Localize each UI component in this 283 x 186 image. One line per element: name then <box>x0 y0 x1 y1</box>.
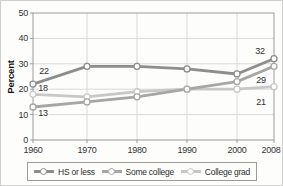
chart-figure: 0102030405019601970198019902000200822181… <box>0 0 283 186</box>
x-tick-label: 1970 <box>77 145 96 155</box>
data-point-label: 29 <box>256 75 266 85</box>
x-tick-label: 2008 <box>261 145 280 155</box>
legend-item-hs-or-less: HS or less <box>34 167 95 177</box>
y-tick-label: 10 <box>18 110 28 120</box>
x-tick-label: 1960 <box>23 145 42 155</box>
x-tick-label: 2000 <box>227 145 246 155</box>
y-axis-title: Percent <box>5 54 17 100</box>
legend-item-some-college: Some college <box>102 167 175 177</box>
data-point-label: 21 <box>256 97 266 107</box>
legend-label: Some college <box>126 167 175 177</box>
legend: HS or less Some college College grad <box>27 162 257 181</box>
data-point-label: 13 <box>38 108 48 118</box>
y-tick-label: 0 <box>23 135 28 145</box>
data-point-label: 22 <box>39 66 49 76</box>
y-tick-label: 30 <box>18 59 28 69</box>
line-marker-icon <box>102 167 122 176</box>
x-tick-label: 1980 <box>127 145 146 155</box>
legend-label: College grad <box>205 167 250 177</box>
y-tick-label: 40 <box>18 33 28 43</box>
y-tick-label: 20 <box>18 84 28 94</box>
line-chart: 0102030405019601970198019902000200822181… <box>1 1 283 186</box>
data-point-label: 32 <box>255 46 265 56</box>
line-marker-icon <box>181 167 201 176</box>
data-point-label: 18 <box>38 83 48 93</box>
legend-label: HS or less <box>58 167 95 177</box>
legend-item-college-grad: College grad <box>181 167 250 177</box>
x-tick-label: 1990 <box>177 145 196 155</box>
line-marker-icon <box>34 167 54 176</box>
y-tick-label: 50 <box>18 8 28 18</box>
